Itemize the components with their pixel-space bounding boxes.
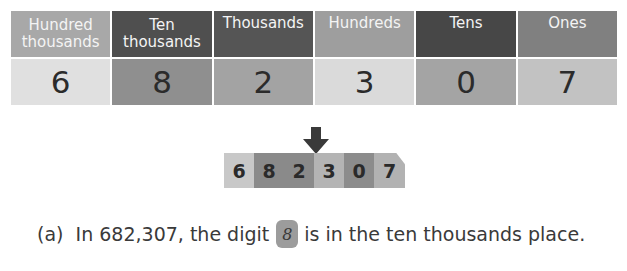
question-sentence: (a) In 682,307, the digit8is in the ten … [37,220,585,248]
digit-hundreds: 3 [315,59,414,105]
strip-digit-2: 2 [284,153,314,188]
digit-thousands: 2 [214,59,313,105]
question-suffix: is in the ten thousands place. [304,223,585,245]
header-hundreds: Hundreds [315,11,414,57]
digit-tens: 0 [416,59,515,105]
header-ones: Ones [518,11,617,57]
header-hundred-thousands: Hundred thousands [11,11,110,57]
digit-strip: 6 8 2 3 0 7 [224,153,405,188]
strip-digit-7: 7 [374,153,405,188]
strip-digit-8: 8 [254,153,284,188]
header-thousands: Thousands [214,11,313,57]
digit-ten-thousands: 8 [112,59,211,105]
down-arrow-icon [303,127,329,154]
digit-ones: 7 [518,59,617,105]
strip-digit-3: 3 [314,153,344,188]
question-prefix: In 682,307, the digit [76,223,270,245]
strip-digit-0: 0 [344,153,374,188]
answer-box: 8 [276,220,298,248]
place-value-table: Hundred thousands Ten thousands Thousand… [11,11,617,105]
header-ten-thousands: Ten thousands [112,11,211,57]
strip-digit-6: 6 [224,153,254,188]
digit-hundred-thousands: 6 [11,59,110,105]
question-label: (a) [37,223,63,245]
header-tens: Tens [416,11,515,57]
